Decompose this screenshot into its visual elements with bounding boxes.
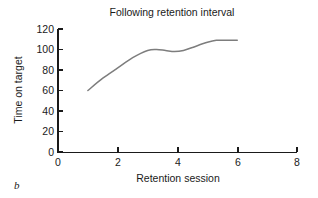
y-tick-label: 80	[42, 64, 54, 76]
x-axis-tick-labels: 0 2 4 6 8	[55, 156, 300, 168]
chart-canvas: Following retention interval 120 100 80 …	[0, 0, 318, 198]
y-tick-label: 20	[42, 125, 54, 137]
x-tick-label: 6	[235, 156, 241, 168]
x-tick-label: 2	[115, 156, 121, 168]
y-tick-label: 120	[36, 23, 54, 35]
x-tick-label: 0	[55, 156, 61, 168]
y-tick-label: 40	[42, 105, 54, 117]
figure-panel-b: Following retention interval 120 100 80 …	[0, 0, 318, 198]
y-axis-ticks	[58, 29, 63, 152]
x-axis-title: Retention session	[136, 172, 220, 184]
x-tick-label: 8	[294, 156, 300, 168]
panel-letter: b	[14, 179, 20, 191]
chart-title: Following retention interval	[110, 6, 235, 18]
x-tick-label: 4	[175, 156, 181, 168]
y-axis-tick-labels: 120 100 80 60 40 20 0	[36, 23, 54, 158]
y-tick-label: 0	[48, 146, 54, 158]
y-tick-label: 60	[42, 84, 54, 96]
x-axis-ticks	[58, 147, 297, 152]
data-series-line	[88, 40, 237, 90]
y-axis-title: Time on target	[12, 56, 24, 123]
y-tick-label: 100	[36, 43, 54, 55]
